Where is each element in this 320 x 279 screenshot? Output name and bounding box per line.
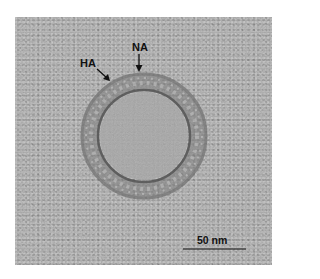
na-label: NA bbox=[132, 41, 148, 53]
virion bbox=[82, 74, 206, 198]
ha-label: HA bbox=[80, 57, 96, 69]
scale-bar-label: 50 nm bbox=[197, 234, 227, 246]
